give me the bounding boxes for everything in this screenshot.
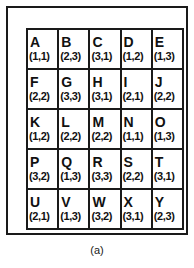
cell-coordinate: (2,2) — [123, 170, 144, 183]
grid-cell-p: P (3,2) — [28, 150, 59, 188]
cell-coordinate: (3,1) — [123, 210, 144, 223]
cell-coordinate: (3,2) — [91, 210, 112, 223]
cell-letter: U — [30, 195, 40, 210]
table-row: U (2,1) V (1,3) W (3,2) X (3,1) Y (2,3 — [28, 190, 182, 228]
grid-cell-s: S (2,2) — [122, 150, 153, 188]
figure-panel: A (1,1) B (2,3) C (3,1) D (1,2) E (1,3 — [0, 0, 194, 268]
cell-coordinate: (1,3) — [154, 130, 175, 143]
cell-letter: G — [61, 75, 72, 90]
grid-cell-t: T (3,1) — [153, 150, 182, 188]
cell-coordinate: (3,2) — [29, 170, 50, 183]
cell-letter: O — [155, 115, 166, 130]
cell-letter: B — [61, 35, 71, 50]
grid-cell-r: R (3,3) — [90, 150, 121, 188]
cell-coordinate: (1,3) — [60, 210, 81, 223]
cell-coordinate: (1,2) — [29, 130, 50, 143]
cell-letter: T — [155, 155, 164, 170]
cell-letter: Y — [155, 195, 164, 210]
table-row: A (1,1) B (2,3) C (3,1) D (1,2) E (1,3 — [28, 30, 182, 70]
cell-coordinate: (2,2) — [29, 90, 50, 103]
cell-letter: C — [92, 35, 102, 50]
grid-cell-o: O (1,3) — [153, 110, 182, 148]
table-row: K (1,2) L (2,2) M (2,2) N (1,1) O (1,3 — [28, 110, 182, 150]
letter-grid: A (1,1) B (2,3) C (3,1) D (1,2) E (1,3 — [26, 28, 184, 230]
cell-letter: W — [92, 195, 105, 210]
cell-letter: Q — [61, 155, 72, 170]
grid-cell-l: L (2,2) — [59, 110, 90, 148]
cell-letter: H — [92, 75, 102, 90]
grid-cell-k: K (1,2) — [28, 110, 59, 148]
grid-cell-w: W (3,2) — [90, 190, 121, 228]
cell-coordinate: (2,2) — [91, 130, 112, 143]
cell-letter: I — [124, 75, 128, 90]
cell-letter: V — [61, 195, 70, 210]
grid-cell-e: E (1,3) — [153, 30, 182, 68]
cell-coordinate: (3,3) — [60, 90, 81, 103]
grid-cell-h: H (3,1) — [90, 70, 121, 108]
cell-letter: R — [92, 155, 102, 170]
grid-cell-i: I (2,1) — [122, 70, 153, 108]
cell-coordinate: (3,1) — [91, 90, 112, 103]
table-row: F (2,2) G (3,3) H (3,1) I (2,1) J (2,2 — [28, 70, 182, 110]
grid-cell-x: X (3,1) — [122, 190, 153, 228]
cell-coordinate: (2,3) — [60, 50, 81, 63]
cell-letter: D — [124, 35, 134, 50]
cell-coordinate: (2,1) — [123, 90, 144, 103]
cell-letter: L — [61, 115, 70, 130]
grid-cell-m: M (2,2) — [90, 110, 121, 148]
table-row: P (3,2) Q (1,3) R (3,3) S (2,2) T (3,1 — [28, 150, 182, 190]
grid-cell-v: V (1,3) — [59, 190, 90, 228]
cell-coordinate: (1,3) — [154, 50, 175, 63]
cell-coordinate: (1,3) — [60, 170, 81, 183]
cell-coordinate: (3,1) — [154, 170, 175, 183]
cell-coordinate: (2,1) — [29, 210, 50, 223]
cell-letter: P — [30, 155, 39, 170]
cell-letter: J — [155, 75, 163, 90]
grid-cell-u: U (2,1) — [28, 190, 59, 228]
cell-letter: S — [124, 155, 133, 170]
cell-coordinate: (1,1) — [123, 130, 144, 143]
grid-cell-y: Y (2,3) — [153, 190, 182, 228]
outer-frame-border: A (1,1) B (2,3) C (3,1) D (1,2) E (1,3 — [6, 6, 188, 235]
grid-cell-n: N (1,1) — [122, 110, 153, 148]
grid-cell-b: B (2,3) — [59, 30, 90, 68]
grid-cell-j: J (2,2) — [153, 70, 182, 108]
cell-letter: E — [155, 35, 164, 50]
grid-cell-f: F (2,2) — [28, 70, 59, 108]
cell-letter: A — [30, 35, 40, 50]
grid-cell-a: A (1,1) — [28, 30, 59, 68]
cell-coordinate: (3,1) — [91, 50, 112, 63]
cell-letter: N — [124, 115, 134, 130]
cell-letter: K — [30, 115, 40, 130]
cell-coordinate: (1,1) — [29, 50, 50, 63]
cell-letter: M — [92, 115, 104, 130]
cell-coordinate: (1,2) — [123, 50, 144, 63]
cell-coordinate: (2,2) — [154, 90, 175, 103]
cell-letter: X — [124, 195, 133, 210]
grid-cell-d: D (1,2) — [122, 30, 153, 68]
cell-coordinate: (2,3) — [154, 210, 175, 223]
grid-cell-c: C (3,1) — [90, 30, 121, 68]
grid-cell-q: Q (1,3) — [59, 150, 90, 188]
grid-cell-g: G (3,3) — [59, 70, 90, 108]
cell-letter: F — [30, 75, 39, 90]
cell-coordinate: (3,3) — [91, 170, 112, 183]
figure-caption: (a) — [0, 244, 194, 256]
cell-coordinate: (2,2) — [60, 130, 81, 143]
